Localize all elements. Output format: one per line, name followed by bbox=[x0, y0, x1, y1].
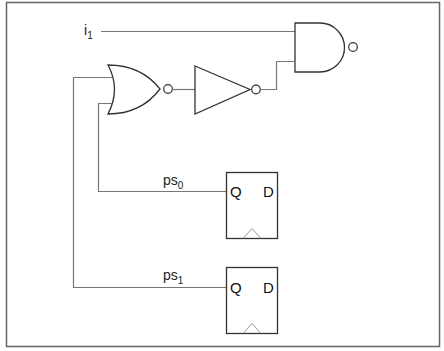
nand-gate bbox=[295, 23, 357, 72]
not-gate bbox=[195, 66, 260, 114]
clock-triangle-icon bbox=[243, 324, 261, 334]
ff0-q-label: Q bbox=[230, 184, 242, 199]
label-ps1: ps1 bbox=[163, 268, 183, 286]
ff1-q-label: Q bbox=[230, 280, 242, 295]
label-i1: i1 bbox=[84, 23, 93, 41]
ff1-d-label: D bbox=[263, 280, 274, 295]
nor-bubble bbox=[164, 85, 173, 94]
clock-triangle-icon bbox=[243, 229, 261, 239]
ff0-d-label: D bbox=[263, 184, 274, 199]
wire-ps1 bbox=[74, 78, 227, 288]
flipflop-1 bbox=[227, 268, 278, 334]
diagram-frame bbox=[7, 3, 440, 347]
label-ps0: ps0 bbox=[163, 173, 183, 191]
nor-gate bbox=[108, 65, 172, 114]
wire-not-to-nand bbox=[261, 62, 296, 90]
not-bubble bbox=[252, 85, 261, 94]
circuit-diagram bbox=[0, 0, 444, 351]
nand-bubble bbox=[349, 43, 358, 52]
